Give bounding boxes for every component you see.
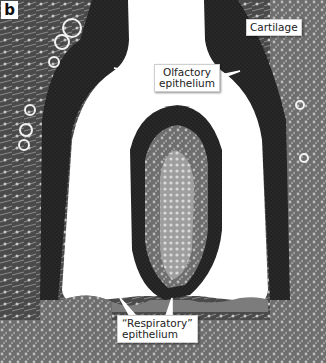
panel-label: b xyxy=(1,1,18,19)
olfactory-label-line2: epithelium xyxy=(159,78,215,89)
micrograph-figure: b Cartilage Olfactory epithelium “Respir… xyxy=(0,0,326,363)
olfactory-epithelium-label: Olfactory epithelium xyxy=(154,64,220,92)
respiratory-epithelium-label: “Respiratory” epithelium xyxy=(117,315,198,343)
tissue-section-image xyxy=(0,0,326,363)
cartilage-label-text: Cartilage xyxy=(250,21,298,33)
respiratory-label-line2: epithelium xyxy=(122,329,193,340)
cartilage-label: Cartilage xyxy=(246,19,302,36)
